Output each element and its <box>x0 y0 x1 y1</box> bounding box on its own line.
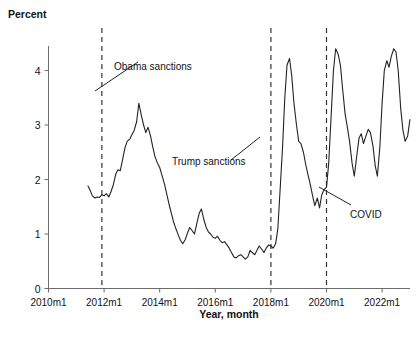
x-tick-label: 2022m1 <box>364 297 401 308</box>
data-series-line <box>88 49 410 259</box>
x-tick-label: 2020m1 <box>308 297 345 308</box>
x-tick-label: 2016m1 <box>197 297 234 308</box>
x-axis-tick-labels: 2010m12012m12014m12016m12018m12020m12022… <box>30 297 400 308</box>
x-tick-label: 2014m1 <box>142 297 179 308</box>
x-axis-title: Year, month <box>199 308 259 320</box>
y-tick-label: 1 <box>35 228 41 240</box>
percent-time-series-chart: Percent 01234 2010m12012m12014m12016m120… <box>0 0 418 344</box>
annotation-obama-sanctions: Obama sanctions <box>114 61 192 72</box>
x-axis-ticks <box>49 289 383 293</box>
y-axis-ticks <box>45 71 49 289</box>
x-tick-label: 2018m1 <box>253 297 290 308</box>
y-axis-tick-labels: 01234 <box>35 65 41 295</box>
x-tick-label: 2012m1 <box>86 297 123 308</box>
annotation-trump-sanctions: Trump sanctions <box>172 156 246 167</box>
y-tick-label: 0 <box>35 283 41 295</box>
y-tick-label: 2 <box>35 174 41 186</box>
covid-leader-line <box>319 187 351 205</box>
x-tick-label: 2010m1 <box>30 297 67 308</box>
y-tick-label: 3 <box>35 119 41 131</box>
annotation-covid: COVID <box>350 209 382 220</box>
y-axis-title: Percent <box>8 8 47 20</box>
y-tick-label: 4 <box>35 65 41 77</box>
chart-container: Percent 01234 2010m12012m12014m12016m120… <box>0 0 418 344</box>
